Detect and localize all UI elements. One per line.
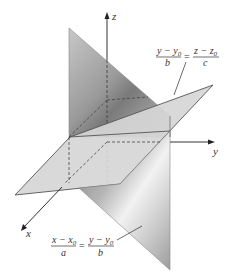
svg-text:=: = — [184, 51, 190, 62]
svg-text:b: b — [98, 247, 103, 258]
equation-lower: x − x0 a = y − y0 b — [51, 234, 114, 258]
z-axis-arrow-icon — [105, 12, 110, 19]
y-axis-arrow-icon — [208, 140, 215, 145]
svg-text:a: a — [61, 247, 66, 258]
x-axis-label: x — [25, 227, 31, 239]
svg-text:c: c — [203, 57, 208, 68]
svg-text:y − y0: y − y0 — [88, 234, 114, 247]
z-axis-label: z — [111, 10, 117, 22]
svg-text:x − x0: x − x0 — [51, 234, 77, 247]
svg-text:b: b — [165, 57, 170, 68]
svg-text:=: = — [79, 240, 85, 251]
equation-upper: y − y0 b = z − z0 c — [156, 45, 219, 68]
y-axis-label: y — [212, 145, 218, 157]
planes-diagram: z y x y − y0 b = z − z0 c x − x0 a = y −… — [0, 0, 235, 279]
leader-line-upper — [174, 62, 186, 95]
